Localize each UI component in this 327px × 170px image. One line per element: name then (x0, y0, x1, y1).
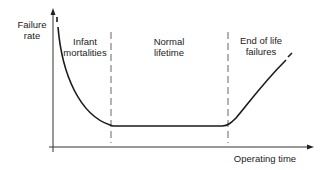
failure-rate-curve (57, 17, 286, 126)
y-axis-arrow-icon (51, 8, 56, 15)
y-axis-label: Failure rate (14, 19, 50, 41)
region-label-normal: Normal lifetime (139, 36, 199, 58)
region-label-infant: Infant mortalities (60, 36, 110, 58)
region-label-end-of-life: End of life failures (232, 35, 290, 57)
x-axis-arrow-icon (307, 145, 314, 150)
x-axis-label: Operating time (230, 153, 300, 164)
